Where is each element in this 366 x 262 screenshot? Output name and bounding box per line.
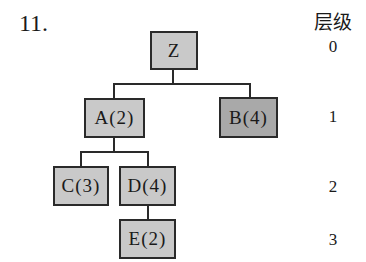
edge-to-c: [80, 151, 82, 166]
edge-level1-horizontal: [113, 83, 251, 85]
node-d: D(4): [119, 166, 176, 206]
node-c: C(3): [53, 166, 109, 206]
node-a: A(2): [84, 98, 145, 138]
edge-to-a: [113, 83, 115, 98]
node-z: Z: [150, 31, 198, 70]
question-number: 11.: [19, 9, 48, 37]
level-label-0: 0: [309, 37, 357, 57]
edge-to-d: [147, 151, 149, 166]
node-b: B(4): [219, 97, 278, 138]
edge-d-to-e: [147, 206, 149, 219]
level-label-2: 2: [309, 177, 357, 197]
level-header: 层级: [309, 11, 357, 35]
edge-level2-horizontal: [80, 151, 149, 153]
node-e: E(2): [119, 219, 176, 259]
level-label-1: 1: [309, 107, 357, 127]
edge-to-b: [249, 83, 251, 98]
level-label-3: 3: [309, 230, 357, 250]
